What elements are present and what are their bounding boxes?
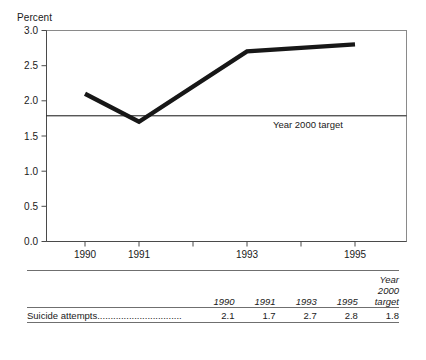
column-header-stub [27,274,193,308]
column-header-1995: 1995 [317,274,358,308]
column-header-1991: 1991 [235,274,276,308]
y-tick-label: 2.0 [24,95,38,106]
column-header-year-2000-target: Year 2000 target [358,274,399,308]
y-tick-labels: 3.0 2.5 2.0 1.5 1.0 0.5 0.0 [24,25,38,247]
chart-page: Percent 3.0 2.5 2.0 1.5 [0,0,426,360]
year-2000-target-label: Year 2000 target [273,119,343,130]
column-header-1990: 1990 [193,274,234,308]
x-tick-marks [85,242,355,247]
row-label-suicide-attempts: Suicide attempts........................… [27,310,193,323]
y-tick-label: 1.5 [24,131,38,142]
y-tick-label: 0.0 [24,236,38,247]
line-chart-figure: Percent 3.0 2.5 2.0 1.5 [0,0,426,265]
table-rule-bottom [27,323,399,326]
y-tick-label: 0.5 [24,201,38,212]
cell-1991: 1.7 [235,310,276,323]
y-tick-label: 3.0 [24,25,38,36]
x-tick-label: 1993 [236,249,259,260]
cell-1990: 2.1 [193,310,234,323]
cell-year-2000-target: 1.8 [358,310,399,323]
column-header-1993: 1993 [276,274,317,308]
x-tick-label: 1995 [344,249,367,260]
y-tick-label: 1.0 [24,166,38,177]
table-row: Suicide attempts........................… [27,310,399,323]
x-tick-label: 1991 [128,249,151,260]
x-tick-labels: 1990 1991 1993 1995 [74,249,367,260]
x-tick-label: 1990 [74,249,97,260]
y-tick-marks [42,31,47,242]
chart-svg: 3.0 2.5 2.0 1.5 1.0 0.5 0.0 199 [0,0,426,265]
data-table-container: 1990 1991 1993 1995 Year 2000 target Sui… [27,270,399,325]
table-header-row: 1990 1991 1993 1995 Year 2000 target [27,274,399,308]
cell-1995: 2.8 [317,310,358,323]
cell-1993: 2.7 [276,310,317,323]
y-tick-label: 2.5 [24,60,38,71]
statistics-table: 1990 1991 1993 1995 Year 2000 target Sui… [27,270,399,325]
